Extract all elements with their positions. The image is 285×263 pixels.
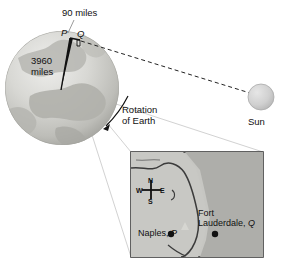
earth-radius-label: 3960 miles — [31, 56, 53, 77]
city-label-naples: Naples, P — [138, 228, 177, 238]
point-p-label: P — [61, 28, 67, 39]
compass-north-label: N — [148, 177, 153, 185]
city-dot-fort-lauderdale — [212, 231, 218, 237]
city-point-fort-lauderdale: Q — [248, 218, 255, 228]
sun-body — [248, 84, 274, 110]
city-name-fort-line2: Lauderdale, — [198, 218, 248, 228]
earth-globe — [5, 31, 119, 148]
point-q-label: Q — [77, 29, 84, 40]
rotation-of-earth-label: Rotation of Earth — [122, 105, 157, 126]
compass-west-label: W — [136, 187, 143, 195]
city-point-naples: P — [171, 228, 177, 238]
arc-distance-leader — [68, 20, 74, 33]
compass-south-label: S — [148, 198, 153, 206]
compass-east-label: E — [160, 187, 165, 195]
earth-sun-figure: 90 miles 3960 miles Rotation of Earth Su… — [0, 0, 285, 263]
city-name-naples: Naples, — [138, 228, 171, 238]
arc-distance-label: 90 miles — [62, 8, 97, 19]
city-label-fort-lauderdale: FortLauderdale, Q — [198, 208, 255, 228]
sun-label: Sun — [248, 117, 265, 128]
city-name-fort-line1: Fort — [198, 208, 214, 218]
